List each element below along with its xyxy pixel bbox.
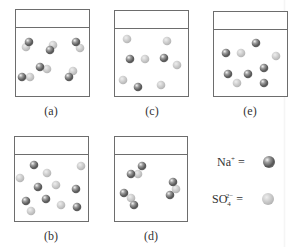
sodium-ion-sphere [134, 83, 143, 92]
sodium-ion-sphere [160, 54, 169, 63]
legend-sodium-sphere [263, 156, 275, 168]
legend-so4-equals: = [236, 192, 243, 206]
sodium-ion-sphere [224, 70, 233, 79]
sodium-ion-sphere [138, 162, 147, 171]
sodium-ion-sphere [126, 55, 135, 64]
sodium-ion-sphere [46, 46, 55, 55]
sodium-ion-sphere [36, 63, 45, 72]
legend-na: Na+ = [217, 155, 245, 170]
legend-na-equals: = [238, 155, 245, 169]
sulfate-ion-sphere [233, 79, 242, 88]
sulfate-ion-sphere [27, 207, 36, 216]
sodium-ion-sphere [22, 197, 31, 206]
sodium-ion-sphere [42, 195, 51, 204]
legend-so4: SO42− = [212, 192, 243, 208]
sulfate-ion-sphere [43, 169, 52, 178]
sulfate-ion-sphere [57, 201, 66, 210]
sodium-ion-sphere [34, 183, 43, 192]
sulfate-ion-sphere [123, 35, 132, 44]
sodium-ion-sphere [72, 38, 81, 47]
sodium-ion-sphere [18, 73, 27, 82]
sulfate-ion-sphere [26, 73, 35, 82]
sodium-ion-sphere [166, 191, 175, 200]
sulfate-ion-sphere [77, 162, 86, 171]
sodium-ion-sphere [65, 73, 74, 82]
sulfate-ion-sphere [52, 181, 61, 190]
sodium-ion-sphere [25, 38, 34, 47]
sodium-ion-sphere [72, 185, 81, 194]
sodium-ion-sphere [260, 79, 269, 88]
sulfate-ion-sphere [173, 61, 182, 70]
sodium-ion-sphere [222, 49, 231, 58]
sodium-ion-sphere [169, 178, 178, 187]
sulfate-ion-sphere [16, 174, 25, 183]
sodium-ion-sphere [252, 39, 261, 48]
particle-layer [0, 0, 291, 247]
sodium-ion-sphere [120, 189, 129, 198]
sodium-ion-sphere [127, 170, 136, 179]
legend-so4-subscript: 4 [227, 200, 231, 208]
legend-na-charge: + [231, 155, 235, 163]
sodium-ion-sphere [73, 203, 82, 212]
sulfate-ion-sphere [141, 55, 150, 64]
sulfate-ion-sphere [272, 52, 281, 61]
sulfate-ion-sphere [237, 49, 246, 58]
sodium-ion-sphere [130, 201, 139, 210]
sulfate-ion-sphere [157, 81, 166, 90]
sulfate-ion-sphere [163, 37, 172, 46]
legend-na-symbol: Na [217, 155, 231, 169]
sodium-ion-sphere [260, 64, 269, 73]
sodium-ion-sphere [30, 161, 39, 170]
legend-sulfate-sphere [262, 193, 274, 205]
sodium-ion-sphere [244, 70, 253, 79]
sulfate-ion-sphere [119, 76, 128, 85]
legend-so4-charge: 2− [226, 192, 233, 200]
